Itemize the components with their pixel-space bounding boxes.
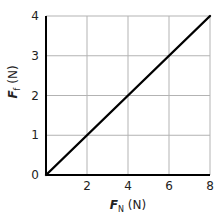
y-tick-label: 4 [31, 9, 39, 23]
x-axis-label: FN (N) [110, 198, 146, 214]
x-tick-labels: 2468 [83, 179, 214, 193]
y-tick-label: 3 [31, 49, 39, 63]
y-tick-label: 1 [31, 128, 39, 142]
y-tick-label: 2 [31, 89, 39, 103]
y-axis-label-unit: (N) [6, 65, 20, 87]
chart: 2468 01234 FN (N) Ff (N) [0, 0, 224, 218]
y-tick-label: 0 [31, 168, 39, 182]
x-tick-label: 6 [165, 179, 173, 193]
y-tick-labels: 01234 [31, 9, 39, 182]
x-axis-label-unit: (N) [124, 198, 146, 212]
x-tick-label: 4 [124, 179, 132, 193]
x-tick-label: 8 [206, 179, 214, 193]
x-tick-label: 2 [83, 179, 91, 193]
y-axis-label: Ff (N) [6, 65, 22, 98]
